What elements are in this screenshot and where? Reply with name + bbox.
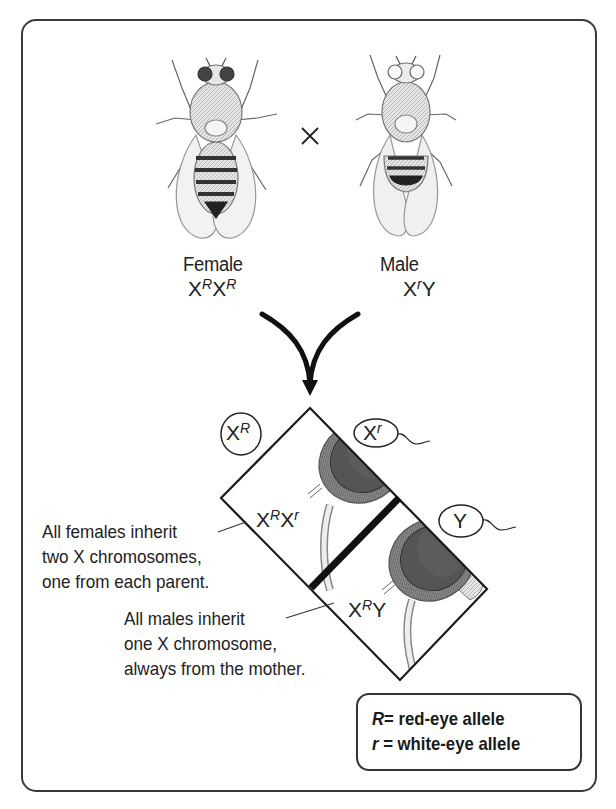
male-fly-icon [356,55,456,236]
females-note-line-2: two X chromosomes, [42,545,202,569]
male-genotype: XrY [403,277,436,301]
male-label: Male [380,252,419,276]
males-note-line-1: All males inherit [124,607,245,631]
males-note-line-3: always from the mother. [124,657,306,681]
sperm-xr-label: Xr [363,421,382,445]
females-note-line-1: All females inherit [42,520,177,544]
males-note-line-2: one X chromosome, [124,632,277,656]
females-pointer-line [218,522,246,532]
legend-item-red-eye: R= red-eye allele [372,707,504,731]
males-pointer-line [286,603,334,618]
allele-legend: R= red-eye allele r = white-eye allele [356,693,582,771]
females-note-line-3: one from each parent. [42,570,209,594]
cross-result-arrow-icon [262,314,358,396]
sperm-y-label: Y [453,509,467,533]
offspring-female-genotype: XRXr [256,508,299,532]
offspring-male-genotype: XRY [348,598,386,622]
legend-item-white-eye: r = white-eye allele [372,732,520,756]
female-label: Female [183,252,243,276]
female-genotype: XRXR [188,277,236,301]
cross-icon [302,128,318,144]
egg-genotype-label: XR [226,421,250,445]
sperm-y-icon [439,505,516,537]
female-fly-icon [156,58,277,238]
diagram-illustration [0,0,616,809]
